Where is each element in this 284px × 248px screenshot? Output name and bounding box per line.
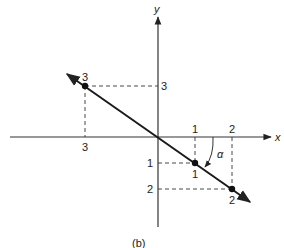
- point-label-2-neg2: 2: [229, 194, 235, 206]
- point-label-1-neg1: 1: [192, 168, 198, 180]
- angle-label-alpha: α: [217, 148, 224, 160]
- tick-label-x-pos2: 2: [229, 123, 235, 135]
- x-axis-label: x: [274, 131, 281, 143]
- tick-label-y-neg1: 1: [147, 157, 153, 169]
- point-neg3-3: [82, 83, 88, 89]
- point-1-neg1: [192, 160, 198, 166]
- y-axis-label: y: [153, 3, 161, 15]
- tick-label-y-pos3: 3: [161, 80, 167, 92]
- figure-caption: (b): [132, 237, 145, 248]
- diagram-figure: x y 3 1 2 3 3 1 2 1 2 α (b): [0, 0, 284, 248]
- point-label-neg3-3: 3: [82, 71, 88, 83]
- tick-label-x-pos1: 1: [192, 123, 198, 135]
- tick-label-x-neg3: 3: [82, 141, 88, 153]
- angle-arc: [205, 137, 213, 167]
- point-2-neg2: [229, 186, 235, 192]
- tick-label-y-neg2: 2: [147, 183, 153, 195]
